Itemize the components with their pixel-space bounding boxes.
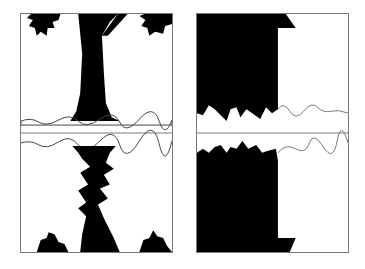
house-illustration bbox=[197, 14, 348, 252]
house-reflection-panel bbox=[196, 13, 349, 253]
tree-reflection-panel bbox=[20, 13, 173, 253]
tree-illustration bbox=[21, 14, 172, 252]
